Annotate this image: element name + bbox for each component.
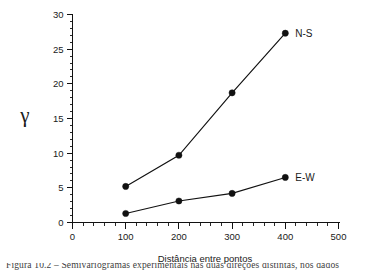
x-tick-label: 100 xyxy=(118,231,134,242)
x-axis-major-ticks xyxy=(73,223,339,229)
data-series-group xyxy=(123,30,289,216)
semivariogram-chart: 051015202530 0100200300400500 N-SE-W Dis… xyxy=(0,0,380,272)
data-point-n-s-100 xyxy=(123,183,129,189)
data-point-e-w-100 xyxy=(123,210,129,216)
data-point-n-s-400 xyxy=(282,30,288,36)
series-label-e-w: E-W xyxy=(295,172,315,183)
x-axis-tick-labels: 0100200300400500 xyxy=(70,231,347,242)
y-axis-tick-labels: 051015202530 xyxy=(53,9,64,228)
x-tick-label: 300 xyxy=(224,231,240,242)
x-tick-label: 200 xyxy=(171,231,187,242)
figure-caption: Figura 10.2 – Semivariogramas experiment… xyxy=(6,263,339,270)
data-point-n-s-200 xyxy=(176,152,182,158)
series-line-e-w xyxy=(126,177,286,213)
x-tick-label: 0 xyxy=(70,231,75,242)
y-axis-title: γ xyxy=(19,103,29,127)
data-point-e-w-300 xyxy=(229,190,235,196)
figure-container: 051015202530 0100200300400500 N-SE-W Dis… xyxy=(0,0,380,272)
series-inline-labels: N-SE-W xyxy=(295,28,315,183)
data-point-e-w-200 xyxy=(176,198,182,204)
y-tick-label: 0 xyxy=(58,217,63,228)
data-point-n-s-300 xyxy=(229,90,235,96)
y-tick-label: 15 xyxy=(53,113,64,124)
axes-group xyxy=(73,14,340,223)
data-point-e-w-400 xyxy=(282,174,288,180)
x-tick-label: 500 xyxy=(331,231,347,242)
y-tick-label: 5 xyxy=(58,182,63,193)
series-line-n-s xyxy=(126,33,286,186)
y-tick-label: 25 xyxy=(53,44,64,55)
x-tick-label: 400 xyxy=(277,231,293,242)
y-axis-major-ticks xyxy=(67,15,73,223)
series-label-n-s: N-S xyxy=(295,28,313,39)
y-tick-label: 30 xyxy=(53,9,64,20)
y-tick-label: 10 xyxy=(53,148,64,159)
figure-caption-strip: Figura 10.2 – Semivariogramas experiment… xyxy=(0,263,380,272)
y-tick-label: 20 xyxy=(53,78,64,89)
